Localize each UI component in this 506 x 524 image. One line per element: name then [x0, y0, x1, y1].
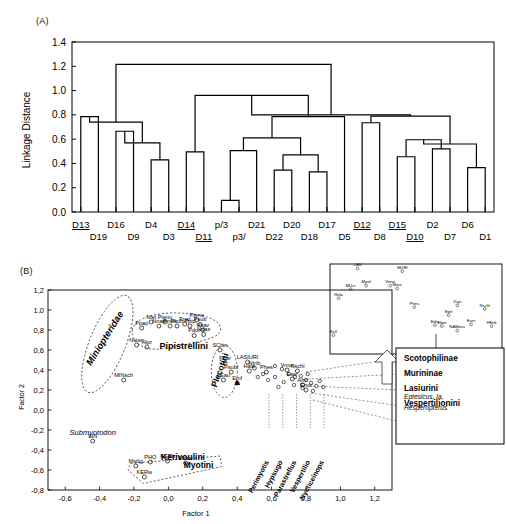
- inset-point-marker: [490, 325, 493, 328]
- scatter-point-label: KERw: [137, 469, 154, 475]
- dendrogram-link: [397, 157, 415, 212]
- scatter-panel: -0,6-0,4-0,20,00,20,40,60,81,01,2 -0,8-0…: [0, 262, 506, 524]
- scatter-point-label: Hipr: [142, 339, 152, 345]
- scatter-point-marker: [264, 370, 268, 374]
- dendrogram-leaf-label: D11: [196, 231, 213, 242]
- scatter-y-tick: 0,6: [34, 346, 44, 355]
- scatter-point-marker: [134, 464, 138, 468]
- scatter-y-tick: -0,8: [31, 486, 44, 495]
- scatter-group-label: Myotini: [184, 460, 214, 470]
- dendrogram-leaf-labels: D13D19D16D9D4D3D14D11p/3p3/D21D22D20D18D…: [72, 219, 491, 242]
- scatter-point-marker: [218, 348, 222, 352]
- scatter-point-label: Hala: [243, 363, 255, 369]
- svg-text:1.4: 1.4: [52, 37, 66, 48]
- dendrogram-y-axis-label: Linkage Distance: [21, 91, 32, 168]
- scatter-y-tick: -0,4: [31, 446, 44, 455]
- inset-point-marker: [447, 314, 450, 317]
- scatter-point-marker: [142, 475, 146, 479]
- dendrogram-link: [283, 155, 318, 172]
- scatter-point-marker: [273, 364, 276, 367]
- scatter-point-label: Phes: [260, 364, 273, 370]
- inset-point-label: Vspi: [453, 299, 461, 304]
- dendrogram-leaf-label: p/3: [215, 219, 228, 230]
- scatter-y-tick: 0,8: [34, 326, 44, 335]
- dendrogram-leaf-label: D15: [389, 219, 406, 230]
- dendrogram-leaf-label: p3/: [232, 231, 246, 242]
- dendrogram-leaf-label: D8: [374, 231, 386, 242]
- dendrogram-link: [362, 123, 380, 212]
- scatter-point-marker: [266, 378, 269, 381]
- svg-text:1.0: 1.0: [52, 85, 66, 96]
- svg-text:0.2: 0.2: [52, 182, 66, 193]
- scatter-x-tick: 0,0: [163, 494, 173, 503]
- scatter-point-label: SChin: [212, 342, 227, 348]
- inset-point-label: Eprl: [445, 309, 453, 314]
- scatter-point-label: Nschl: [290, 363, 304, 369]
- dendrogram-axes: [72, 42, 494, 212]
- inset-zoom-arrow: [375, 350, 399, 384]
- svg-text:0.0: 0.0: [52, 207, 66, 218]
- scatter-axes: [48, 290, 392, 490]
- scatter-point-marker: [304, 388, 308, 392]
- dendrogram-y-tick-labels: 0.00.20.40.60.81.01.21.4: [52, 37, 66, 218]
- legend-leader-line: [309, 386, 400, 390]
- dendrogram-leaf-label: D1: [479, 231, 491, 242]
- dendrogram-leaf-label: D14: [178, 219, 195, 230]
- scatter-point-marker: [168, 324, 172, 328]
- scatter-point-marker: [202, 333, 206, 337]
- dendrogram-link: [309, 172, 327, 212]
- dendrogram-leaf-label: D10: [406, 231, 423, 242]
- dendrogram-links: [81, 64, 485, 212]
- inset-point-label: Hala: [334, 292, 343, 297]
- legend-leader-line: [311, 393, 400, 406]
- scatter-point-marker: [145, 345, 149, 349]
- dendrogram-link: [151, 160, 169, 212]
- scatter-point-label: PHO: [144, 454, 157, 460]
- inset-point-marker: [440, 325, 443, 328]
- scatter-point-label: MINsch: [114, 372, 133, 378]
- scatter-group-label: Submyotodon: [70, 428, 116, 437]
- dendrogram-link: [81, 117, 99, 212]
- svg-text:0.8: 0.8: [52, 109, 66, 120]
- dendrogram-link: [116, 64, 331, 122]
- scatter-point-marker: [306, 372, 309, 375]
- inset-point-label: LAS: [354, 262, 362, 267]
- dendrogram-link: [468, 168, 486, 212]
- scatter-group-label: Pipistrellini: [160, 341, 209, 351]
- scatter-point-label: Ppap: [135, 320, 148, 326]
- legend-item-label: Hesperopterus: [404, 404, 448, 412]
- svg-text:0.4: 0.4: [52, 158, 66, 169]
- inset-point-label: Mpol: [362, 279, 371, 284]
- scatter-y-tick: 0,2: [34, 386, 44, 395]
- dendrogram-leaf-label: D20: [283, 219, 300, 230]
- inset-point-marker: [434, 324, 437, 327]
- scatter-y-tick-labels: -0,8-0,6-0,4-0,20,00,20,40,60,81,01,2: [31, 286, 44, 495]
- scatter-point-marker: [140, 326, 144, 330]
- inset-point-label: NAMoss: [449, 324, 465, 329]
- scatter-point-marker: [247, 369, 251, 373]
- inset-point-label: Esll: [330, 329, 337, 334]
- inset-point-marker: [365, 284, 368, 287]
- inset-frame: [330, 264, 502, 354]
- dendrogram-leaf-label: D17: [318, 219, 335, 230]
- legend-item-label: Murininae: [404, 369, 443, 378]
- svg-text:1.2: 1.2: [52, 61, 66, 72]
- scatter-legend: ScotophilinaeMurininaeLasiuriniVespertil…: [396, 334, 504, 444]
- scatter-point-marker: [318, 379, 321, 382]
- inset-point-label: Nschl: [480, 303, 491, 308]
- scatter-x-tick: 0,4: [232, 494, 242, 503]
- inset-point-marker: [401, 270, 404, 273]
- dendrogram-link: [274, 170, 292, 212]
- dendrogram-leaf-label: D2: [426, 219, 438, 230]
- dendrogram-leaf-label: D12: [353, 219, 370, 230]
- scatter-point-marker: [277, 385, 280, 388]
- inset-point-label: Phes: [410, 301, 420, 306]
- inset-point-marker: [337, 297, 340, 300]
- scatter-x-tick: -0,2: [128, 494, 141, 503]
- dendrogram-leaf-label: D3: [163, 231, 175, 242]
- legend-item-label: Lasiurini: [404, 384, 438, 393]
- inset-point-marker: [413, 306, 416, 309]
- scatter-point-marker: [192, 334, 196, 338]
- inset-point-label: Eser: [467, 318, 476, 323]
- legend-item-label: Scotophilinae: [404, 354, 458, 363]
